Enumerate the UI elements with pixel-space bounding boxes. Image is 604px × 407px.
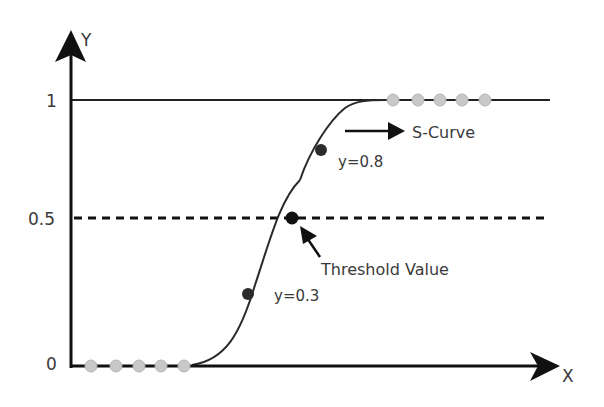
y-tick-0-5: 0.5: [28, 209, 55, 229]
threshold-label: Threshold Value: [320, 260, 449, 279]
y-tick-1: 1: [46, 91, 57, 111]
point-y-0-3: [242, 288, 254, 300]
s-curve-line: [192, 100, 385, 365]
s-curve-arrow-icon: [388, 122, 405, 140]
y-axis-label: Y: [80, 30, 92, 50]
point-y-0-8-label: y=0.8: [338, 153, 383, 171]
point-y-0-8: [315, 144, 327, 156]
point-y-0-3-label: y=0.3: [274, 287, 319, 305]
point-threshold: [286, 212, 299, 225]
s-curve-label: S-Curve: [412, 123, 475, 142]
x-axis-label: X: [562, 366, 574, 386]
sigmoid-chart: Y X 1 0.5 0 S-Curve Threshold Value y=0.…: [0, 0, 604, 407]
y-tick-0: 0: [46, 354, 57, 374]
